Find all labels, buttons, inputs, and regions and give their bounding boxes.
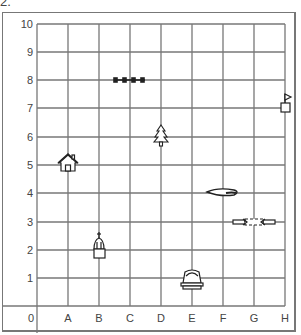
x-label-a: A: [64, 312, 72, 324]
y-label-1: 1: [27, 272, 33, 284]
x-label-h: H: [281, 312, 289, 324]
y-label-10: 10: [21, 18, 33, 30]
y-label-5: 5: [27, 159, 33, 171]
building-icon: [181, 270, 203, 289]
y-label-6: 6: [27, 131, 33, 143]
x-label-b: B: [95, 312, 102, 324]
y-label-4: 4: [27, 187, 33, 199]
x-label-f: F: [220, 312, 227, 324]
x-label-e: E: [188, 312, 195, 324]
church-icon: [94, 232, 105, 258]
y-label-7: 7: [27, 102, 33, 114]
house-icon: [58, 154, 78, 171]
y-label-9: 9: [27, 46, 33, 58]
blimp-icon: [207, 189, 237, 196]
y-label-8: 8: [27, 74, 33, 86]
x-label-c: C: [126, 312, 134, 324]
coordinate-grid: 10 9 8 7 6 5 4 3 2 1 0 A B C D E F G H: [0, 0, 301, 335]
x-axis-labels: 0 A B C D E F G H: [28, 312, 289, 324]
x-label-g: G: [250, 312, 259, 324]
pine-tree-icon: [154, 125, 168, 146]
x-label-d: D: [157, 312, 165, 324]
y-label-3: 3: [27, 216, 33, 228]
y-label-2: 2: [27, 244, 33, 256]
bridge-icon: [233, 219, 275, 225]
x-label-0: 0: [28, 312, 34, 324]
y-axis-labels: 10 9 8 7 6 5 4 3 2 1: [21, 18, 33, 284]
flag-box-icon: [281, 94, 291, 112]
grid-lines: [2, 24, 285, 333]
